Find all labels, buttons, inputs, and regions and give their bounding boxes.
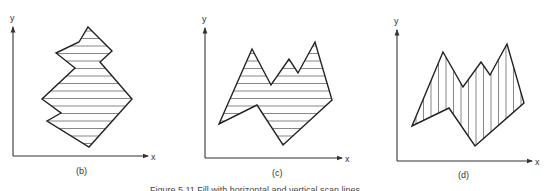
- x-axis-label: x: [535, 157, 540, 167]
- panel-d: y x (d): [394, 16, 540, 180]
- polygon-outline: [219, 42, 332, 145]
- panel-c: y x (c): [202, 14, 350, 178]
- hatch-lines: [416, 44, 521, 146]
- figure-canvas: y x (b) y x (c) y x (d): [0, 0, 551, 191]
- figure-caption: Figure 5.11 Fill with horizontal and ver…: [150, 185, 360, 191]
- panel-b: y x (b): [10, 13, 156, 176]
- x-axis-label: x: [345, 154, 350, 164]
- panel-label: (b): [76, 166, 87, 176]
- panel-label: (c): [272, 168, 283, 178]
- y-axis-label: y: [394, 16, 399, 26]
- hatch-lines: [219, 46, 332, 144]
- y-axis-label: y: [202, 14, 207, 24]
- y-axis-label: y: [10, 13, 15, 23]
- polygon-outline: [42, 27, 132, 147]
- x-axis-label: x: [151, 152, 156, 162]
- panel-label: (d): [458, 170, 469, 180]
- polygon-outline: [412, 44, 524, 146]
